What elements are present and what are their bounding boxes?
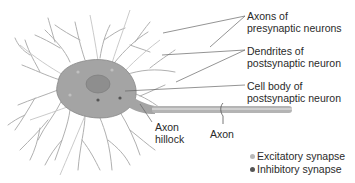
excitatory-dot-icon <box>250 154 255 159</box>
label-line: postsynaptic neuron <box>247 92 341 104</box>
legend-excitatory: Excitatory synapse <box>250 150 345 162</box>
legend-label: Excitatory synapse <box>257 150 345 162</box>
label-axons-presynaptic: Axons of presynaptic neurons <box>247 10 342 34</box>
axon-hillock-shape <box>128 95 155 114</box>
label-line: hillock <box>155 133 184 145</box>
nucleus <box>86 75 110 93</box>
label-line: postsynaptic neuron <box>247 57 341 69</box>
label-dendrites-postsynaptic: Dendrites of postsynaptic neuron <box>247 45 341 69</box>
legend-inhibitory: Inhibitory synapse <box>250 163 342 175</box>
label-cell-body: Cell body of postsynaptic neuron <box>247 80 341 104</box>
label-line: presynaptic neurons <box>247 22 342 34</box>
label-line: Cell body of <box>247 80 341 92</box>
label-axon-hillock: Axon hillock <box>155 121 184 145</box>
label-line: Axon <box>155 121 184 133</box>
label-axon: Axon <box>210 128 234 140</box>
label-line: Dendrites of <box>247 45 341 57</box>
inhibitory-dot-icon <box>250 167 255 172</box>
label-line: Axons of <box>247 10 342 22</box>
legend-label: Inhibitory synapse <box>257 163 342 175</box>
